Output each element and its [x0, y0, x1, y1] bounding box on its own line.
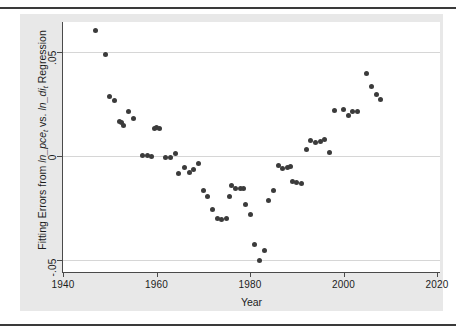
scatter-point: [369, 84, 374, 89]
y-tick-mark: [57, 260, 62, 261]
x-tick-mark: [344, 272, 345, 277]
scatter-point: [355, 109, 360, 114]
scatter-point: [182, 165, 187, 170]
y-tick-label: 0: [47, 155, 58, 195]
x-axis-line: [62, 272, 440, 273]
scatter-point: [374, 92, 379, 97]
scatter-point: [157, 126, 162, 131]
y-axis-title-var1-sub: t: [41, 130, 50, 132]
scatter-point: [299, 181, 304, 186]
y-tick-label: -.05: [47, 259, 58, 299]
x-tick-mark: [157, 272, 158, 277]
scatter-point: [364, 71, 369, 76]
scatter-point: [341, 107, 346, 112]
scatter-point: [168, 155, 173, 160]
y-axis-line: [62, 22, 63, 272]
plot-area: [63, 22, 440, 272]
scatter-point: [227, 194, 232, 199]
y-tick-mark: [57, 156, 62, 157]
scatter-point: [126, 109, 131, 114]
y-axis-title-lead: Fitting Errors from: [36, 163, 48, 250]
scatter-point: [262, 248, 267, 253]
scatter-point: [288, 164, 293, 169]
scatter-point: [173, 151, 178, 156]
scatter-point: [252, 242, 257, 247]
scatter-point: [210, 207, 215, 212]
scatter-point: [346, 113, 351, 118]
scatter-point: [131, 116, 136, 121]
scatter-point: [378, 97, 383, 102]
x-tick-mark: [250, 272, 251, 277]
gridline-y: [63, 260, 440, 261]
scatter-point: [248, 212, 253, 217]
y-axis-title-var2: ln_di: [36, 88, 48, 110]
scatter-point: [121, 123, 126, 128]
scatter-point: [201, 188, 206, 193]
scatter-point: [112, 98, 117, 103]
scatter-point: [243, 202, 248, 207]
scatter-point: [103, 52, 108, 57]
x-tick-label: 2020: [417, 279, 456, 290]
y-axis-title-mid: vs.: [36, 111, 48, 130]
x-tick-mark: [437, 272, 438, 277]
x-tick-label: 1960: [137, 279, 177, 290]
scatter-point: [205, 194, 210, 199]
x-tick-mark: [63, 272, 64, 277]
y-axis-title: Fitting Errors from ln_pcet vs. ln_dit R…: [36, 11, 48, 269]
scatter-point: [271, 188, 276, 193]
y-tick-mark: [57, 52, 62, 53]
scatter-point: [149, 154, 154, 159]
scatter-point: [327, 150, 332, 155]
scatter-point: [266, 198, 271, 203]
bottom-divider-rule: [0, 324, 456, 326]
x-axis-title: Year: [63, 296, 440, 308]
scatter-point: [107, 94, 112, 99]
gridline-y: [63, 156, 440, 157]
figure-screenshot: 19401960198020002020.050-.05 Year Fittin…: [0, 0, 456, 331]
scatter-point: [322, 137, 327, 142]
y-tick-label: .05: [47, 51, 58, 91]
top-divider-rule: [0, 7, 456, 9]
y-axis-title-tail: Regression: [36, 30, 48, 86]
scatter-point: [191, 167, 196, 172]
scatter-point: [93, 28, 98, 33]
scatter-point: [176, 171, 181, 176]
x-tick-label: 1980: [230, 279, 270, 290]
scatter-point: [224, 216, 229, 221]
x-tick-label: 2000: [324, 279, 364, 290]
scatter-point: [241, 186, 246, 191]
scatter-point: [257, 258, 262, 263]
scatter-point: [196, 161, 201, 166]
scatter-point: [304, 147, 309, 152]
gridline-y: [63, 52, 440, 53]
scatter-point: [332, 108, 337, 113]
y-axis-title-var1: ln_pce: [36, 132, 48, 163]
